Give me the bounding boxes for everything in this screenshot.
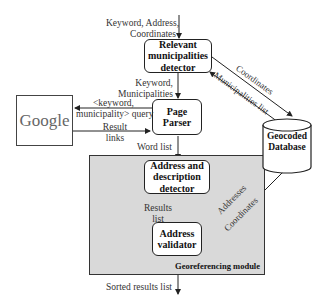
address-detector-node: Address and description detector [144,160,210,194]
page-parser-label: Page Parser [159,106,195,129]
edge-label-line: <keyword, [76,98,151,109]
input-label: Keyword, Address, Coordinates [106,18,176,39]
edge-label-line: Results [140,203,176,214]
edge-label-line: list [140,214,176,225]
address-validator-label: Address validator [157,228,197,251]
edge-label-results-list: Results list [140,203,176,224]
database-label: Geocoded Database [262,131,312,153]
database-label-line-2: Database [262,142,312,153]
municipalities-detector-node: Relevant municipalities detector [144,39,212,73]
edge-label-keyword-municipalities: Keyword, Municipalities [113,78,173,99]
address-validator-node: Address validator [152,222,202,256]
google-logo: Google [16,95,73,146]
edge-label-query: <keyword, municipality> query [76,98,151,119]
input-label-line-1: Keyword, Address, [106,18,176,29]
edge-label-line: Result [95,122,135,133]
address-detector-label: Address and description detector [148,160,206,195]
page-parser-node: Page Parser [152,99,202,135]
edge-label-result-links: Result links [95,122,135,143]
edge-label-word-list: Word list [137,142,172,153]
input-label-line-2: Coordinates [106,29,176,40]
edge-label-line: municipality> query [76,109,151,120]
edge-label-line: links [95,133,135,144]
edge-label-line: Keyword, [113,78,173,89]
module-label: Georeferencing module [175,261,260,271]
google-label: Google [19,111,69,131]
municipalities-detector-label: Relevant municipalities detector [147,39,209,74]
database-label-line-1: Geocoded [262,131,312,142]
edge-label-sorted-results: Sorted results list [106,282,172,293]
